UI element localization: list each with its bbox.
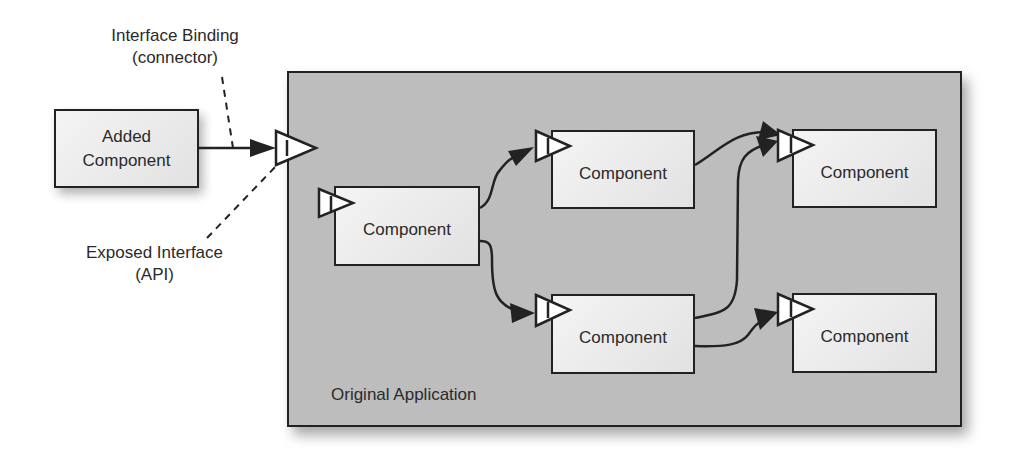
exposed-interface-icon	[276, 131, 316, 165]
binding-leader-line	[222, 77, 233, 148]
interface-c2-icon	[536, 131, 570, 161]
interface-triangles	[276, 130, 813, 326]
binding-connector	[199, 139, 276, 157]
leader-lines	[207, 77, 278, 238]
arrow-head-icon	[510, 303, 535, 323]
interface-c4-icon	[536, 295, 570, 326]
arrow-head-icon	[508, 147, 534, 166]
connection-c1-c4	[480, 241, 520, 312]
connection-c4-c3	[695, 144, 768, 318]
connectors-layer	[0, 0, 1016, 452]
interface-c5-icon	[778, 294, 813, 325]
arrow-head-icon	[754, 308, 778, 330]
arrow-head-icon	[250, 139, 276, 157]
exposed-leader-line	[207, 164, 278, 238]
interface-c1-icon	[319, 189, 353, 217]
connection-c4-c5	[695, 318, 768, 346]
interface-c3-icon	[778, 130, 813, 161]
connection-c1-c2	[480, 155, 520, 208]
